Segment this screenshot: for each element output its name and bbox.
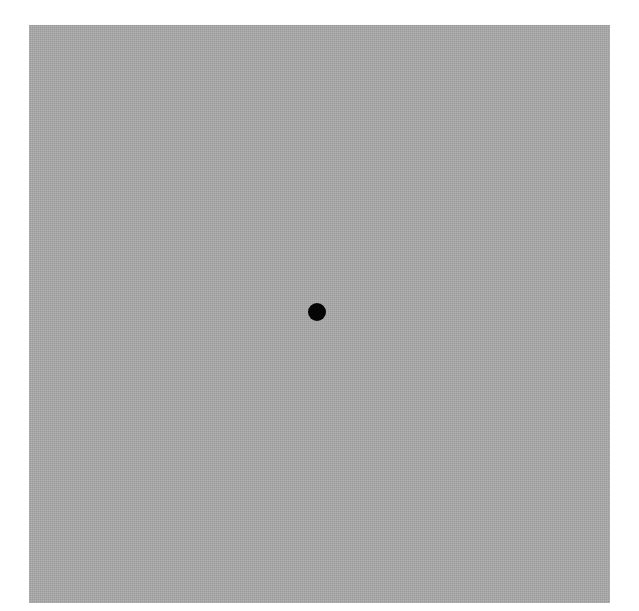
image-canvas (0, 0, 639, 611)
fixation-dot (308, 303, 326, 321)
